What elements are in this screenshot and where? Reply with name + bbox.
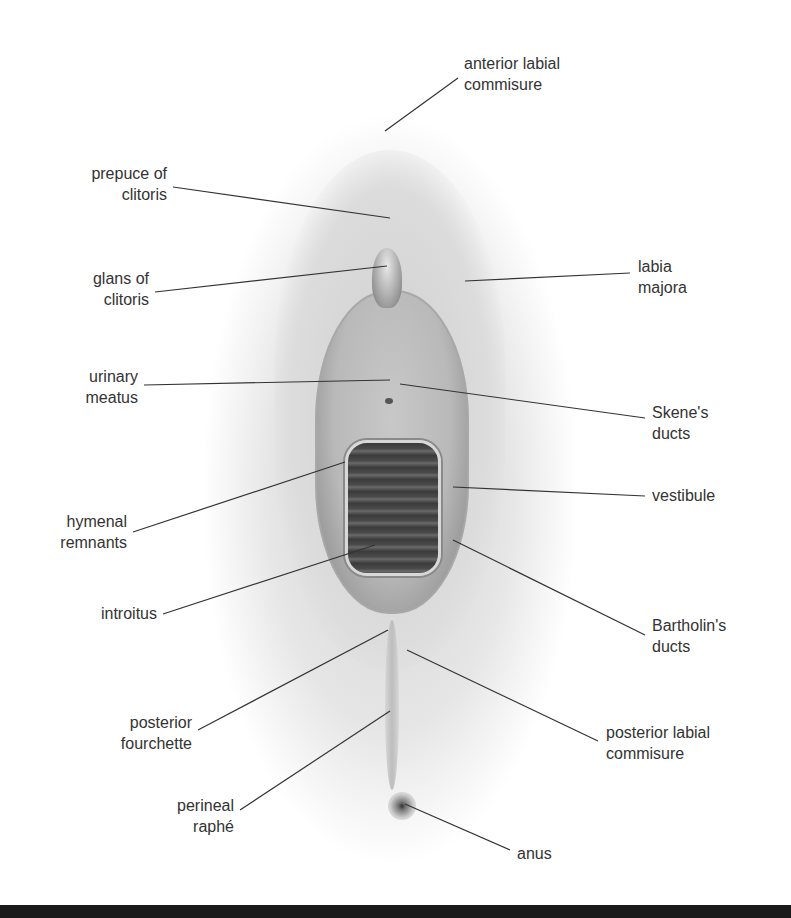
label-urinary-meatus: urinary meatus [60,366,138,408]
label-line: clitoris [60,184,167,205]
label-glans-of-clitoris: glans of clitoris [60,268,149,310]
label-line: commisure [464,74,560,95]
label-posterior-labial-commisure: posterior labial commisure [606,722,710,764]
label-line: meatus [60,387,138,408]
introitus-opening [345,440,441,576]
urethral-point [385,398,393,404]
label-anterior-labial-commisure: anterior labial commisure [464,53,560,95]
label-line: vestibule [652,485,715,506]
label-line: raphé [60,816,234,837]
label-line: clitoris [60,289,149,310]
label-introitus: introitus [60,603,157,624]
label-line: ducts [652,423,708,444]
label-line: urinary [60,366,138,387]
clitoral-hood [372,248,402,308]
label-line: hymenal [20,511,127,532]
label-line: labia [638,256,687,277]
label-line: perineal [60,795,234,816]
label-perineal-raphe: perineal raphé [60,795,234,837]
label-skenes-ducts: Skene's ducts [652,402,708,444]
bottom-border-bar [0,905,791,918]
anatomical-illustration [180,70,600,870]
label-line: majora [638,277,687,298]
label-line: posterior labial [606,722,710,743]
label-hymenal-remnants: hymenal remnants [20,511,127,553]
perineal-ridge [385,620,399,790]
label-line: glans of [60,268,149,289]
label-line: posterior [60,712,192,733]
label-line: remnants [20,532,127,553]
label-vestibule: vestibule [652,485,715,506]
label-line: anus [517,843,552,864]
label-labia-majora: labia majora [638,256,687,298]
label-line: commisure [606,743,710,764]
label-line: ducts [652,636,726,657]
label-line: Skene's [652,402,708,423]
label-prepuce-of-clitoris: prepuce of clitoris [60,163,167,205]
label-posterior-fourchette: posterior fourchette [60,712,192,754]
anal-point [388,792,416,820]
label-bartholins-ducts: Bartholin's ducts [652,615,726,657]
label-line: anterior labial [464,53,560,74]
label-anus: anus [517,843,552,864]
label-line: fourchette [60,733,192,754]
label-line: prepuce of [60,163,167,184]
label-line: introitus [60,603,157,624]
label-line: Bartholin's [652,615,726,636]
